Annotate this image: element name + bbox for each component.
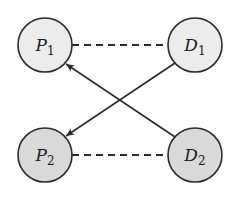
- node-p1-letter: P: [34, 35, 47, 55]
- node-p1-subscript: 1: [47, 44, 55, 58]
- node-d1-subscript: 1: [198, 44, 206, 58]
- node-p1: P1: [18, 18, 72, 72]
- node-d2-subscript: 2: [198, 154, 206, 168]
- node-d2: D2: [168, 128, 222, 182]
- node-d1: D1: [168, 18, 222, 72]
- diagram-canvas: P1 D1 P2 D2: [0, 0, 240, 199]
- node-p2-subscript: 2: [47, 154, 55, 168]
- node-d2-letter: D: [183, 145, 198, 165]
- arrow-d1-to-p2: [66, 63, 175, 136]
- node-d1-letter: D: [183, 35, 198, 55]
- arrow-d2-to-p1: [66, 64, 175, 137]
- node-p2-letter: P: [34, 145, 47, 165]
- node-p2: P2: [18, 128, 72, 182]
